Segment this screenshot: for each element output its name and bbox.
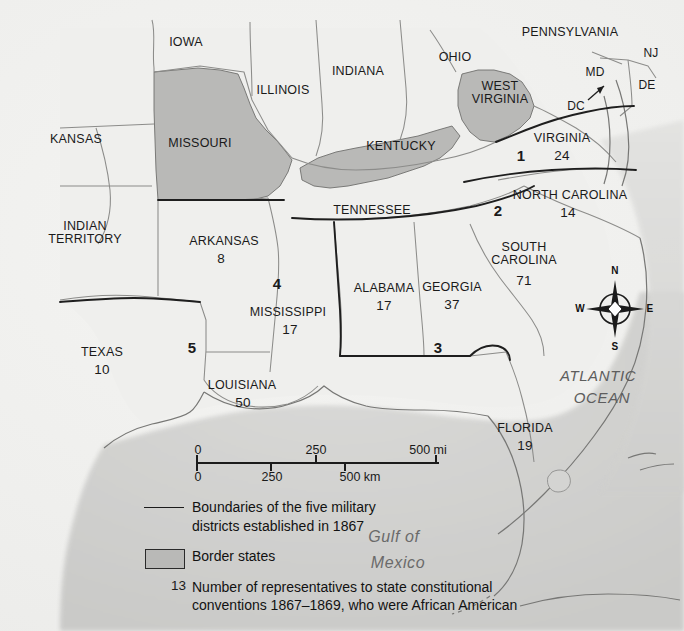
legend-text-border-states: Border states [192,547,275,566]
compass-rose: N E S W [578,272,652,346]
water-label-atlantic: ATLANTIC [560,368,636,384]
scale-label-km-500: 500 km [340,470,381,484]
scale-bar: 0 250 500 mi 0 250 500 km [196,443,439,489]
compass-label-east: E [647,304,654,315]
map-legend: Boundaries of the five military district… [140,498,610,615]
map-figure: IOWA ILLINOIS INDIANA OHIO PENNSYLVANIA … [0,0,684,631]
border-state-swatch-icon [145,549,185,569]
water-label-ocean: OCEAN [574,390,630,406]
compass-label-north: N [611,266,618,277]
legend-sample-number: 13 [140,578,186,593]
legend-row-district-boundaries: Boundaries of the five military district… [140,498,610,535]
compass-rose-graphic [578,272,652,346]
legend-row-border-states: Border states [140,547,610,566]
legend-text-district-boundaries: Boundaries of the five military district… [192,498,376,535]
scale-label-mi-250: 250 [306,443,327,457]
compass-label-west: W [575,304,585,315]
legend-row-representative-counts: 13 Number of representatives to state co… [140,578,610,615]
scale-label-mi-500: 500 mi [409,443,447,457]
scale-label-km-250: 250 [262,470,283,484]
dc-leader-arrowhead [597,86,604,94]
legend-text-representative-counts: Number of representatives to state const… [192,578,517,615]
compass-label-south: S [612,342,619,353]
scale-bar-line [196,462,439,464]
boundary-line-icon [144,507,184,508]
scale-label-km-0: 0 [195,470,202,484]
scale-label-mi-0: 0 [195,443,202,457]
